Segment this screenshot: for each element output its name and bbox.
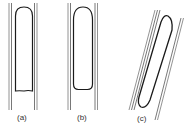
tube-wall-right-inner (155, 18, 181, 120)
panel-a (9, 3, 37, 110)
tube-wall-left-middle (132, 10, 158, 110)
tube-wall-left-inner (134, 10, 160, 110)
panel-label-a: (a) (17, 113, 27, 122)
panel-label-c: (c) (137, 114, 146, 123)
panel-c (129, 10, 184, 120)
bubble-b (74, 7, 93, 90)
panel-label-b: (b) (77, 113, 87, 122)
diagram-canvas (0, 0, 186, 129)
panel-b (68, 3, 98, 110)
bubble-a (16, 7, 33, 91)
